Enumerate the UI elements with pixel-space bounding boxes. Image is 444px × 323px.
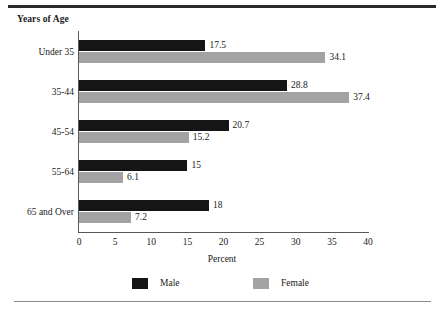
plot-area: 17.5 34.1 28.8 37.4 20.7 15.2 15 6.1 — [79, 31, 368, 233]
chart-legend: Male Female — [0, 276, 444, 292]
x-tick-5: 25 — [248, 237, 272, 247]
bar-female-35-44 — [79, 92, 349, 103]
bar-female-under-35 — [79, 52, 325, 63]
bar-value-female-55-64: 6.1 — [127, 172, 139, 183]
bottom-divider-rule — [14, 301, 431, 302]
bar-value-male-55-64: 15 — [191, 160, 201, 171]
y-axis-label-0: Under 35 — [4, 47, 74, 57]
bar-female-45-54 — [79, 132, 189, 143]
top-divider-rule — [8, 5, 436, 8]
legend-swatch-male-icon — [132, 278, 148, 289]
x-tick-2: 10 — [139, 237, 163, 247]
bar-male-55-64 — [79, 160, 187, 171]
x-tick-4: 20 — [212, 237, 236, 247]
y-axis-label-4: 65 and Over — [4, 207, 74, 217]
x-tick-8: 40 — [356, 237, 380, 247]
x-tick-6: 30 — [284, 237, 308, 247]
bar-value-female-under-35: 34.1 — [329, 52, 346, 63]
y-axis-label-3: 55-64 — [4, 167, 74, 177]
x-tick-1: 5 — [103, 237, 127, 247]
legend-swatch-female-icon — [253, 278, 269, 289]
chart-title: Years of Age — [17, 14, 69, 24]
bar-value-female-45-54: 15.2 — [193, 132, 210, 143]
bar-value-female-65-and-over: 7.2 — [135, 212, 147, 223]
bar-value-female-35-44: 37.4 — [353, 92, 370, 103]
bar-value-male-65-and-over: 18 — [213, 200, 223, 211]
bar-male-35-44 — [79, 80, 287, 91]
legend-label-female: Female — [281, 276, 309, 290]
bar-male-under-35 — [79, 40, 205, 51]
bar-female-55-64 — [79, 172, 123, 183]
x-axis-title: Percent — [0, 254, 444, 264]
bar-male-65-and-over — [79, 200, 209, 211]
bar-value-male-35-44: 28.8 — [291, 80, 308, 91]
bar-male-45-54 — [79, 120, 229, 131]
y-axis-label-2: 45-54 — [4, 127, 74, 137]
bar-chart-figure: Years of Age Under 35 35-44 45-54 55-64 … — [0, 0, 444, 323]
y-axis-label-1: 35-44 — [4, 87, 74, 97]
bar-value-male-45-54: 20.7 — [233, 120, 250, 131]
x-tick-0: 0 — [67, 237, 91, 247]
x-tick-7: 35 — [320, 237, 344, 247]
bar-value-male-under-35: 17.5 — [209, 40, 226, 51]
bar-female-65-and-over — [79, 212, 131, 223]
legend-label-male: Male — [160, 276, 180, 290]
x-tick-3: 15 — [175, 237, 199, 247]
